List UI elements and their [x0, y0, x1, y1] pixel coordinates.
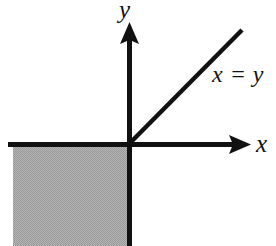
- x-axis-label: x: [256, 131, 267, 156]
- shaded-third-quadrant-region: [13, 147, 129, 246]
- line-equation-label: x = y: [212, 62, 264, 86]
- coordinate-plane-graphic: [0, 0, 276, 246]
- identity-line-x-equals-y: [129, 30, 242, 144]
- figure-canvas: y x x = y: [0, 0, 276, 246]
- y-axis-label: y: [119, 0, 130, 22]
